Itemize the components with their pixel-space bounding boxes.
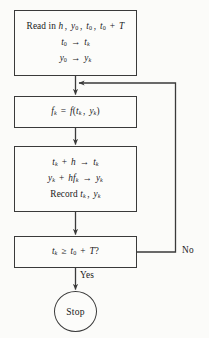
decision-node-test-condition: tk ≥ t0 + T? xyxy=(14,236,137,268)
edge-label-yes: Yes xyxy=(80,270,94,280)
node-line-evaluate-f-1: fk = f(tk, yk) xyxy=(51,104,99,120)
node-line-read-in-1: Read in h, y0, t0, t0 + T xyxy=(27,19,125,35)
node-line-test-condition-1: tk ≥ t0 + T? xyxy=(52,244,99,260)
terminal-node-stop-label: Stop xyxy=(66,306,84,317)
edge-label-no: No xyxy=(182,245,194,255)
node-line-update-step-1: tk + h → tk xyxy=(52,155,98,171)
terminal-node-stop: Stop xyxy=(54,291,97,332)
node-line-read-in-3: y0 → yk xyxy=(60,51,92,67)
flowchart-diagram: Read in h, y0, t0, t0 + T t0 → tk y0 → y… xyxy=(0,0,209,338)
node-line-read-in-2: t0 → tk xyxy=(61,35,90,51)
process-node-evaluate-f: fk = f(tk, yk) xyxy=(14,96,137,128)
process-node-read-in: Read in h, y0, t0, t0 + T t0 → tk y0 → y… xyxy=(14,10,137,76)
node-line-update-step-2: yk + hfk → yk xyxy=(48,171,103,187)
process-node-update-step: tk + h → tk yk + hfk → yk Record tk, yk xyxy=(14,146,137,212)
node-line-update-step-3: Record tk, yk xyxy=(50,187,100,203)
